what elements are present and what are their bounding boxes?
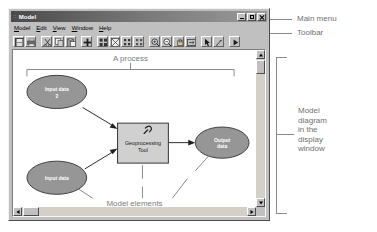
scrollbar-corner xyxy=(256,207,265,216)
node-geoprocessing-tool-label-line-1: Geoprocessing xyxy=(125,140,161,146)
process-bracket xyxy=(27,63,234,77)
scroll-down-button[interactable] xyxy=(256,198,265,207)
callout-main-menu: Main menu xyxy=(297,14,337,24)
node-output-data[interactable]: Output data xyxy=(195,127,249,158)
run-icon[interactable] xyxy=(229,36,240,47)
scroll-left-button[interactable] xyxy=(13,207,22,216)
window-controls xyxy=(237,13,267,21)
node-geoprocessing-tool[interactable]: Geoprocessing Tool xyxy=(118,123,169,163)
diagram-properties-icon[interactable] xyxy=(109,36,120,47)
connect-icon[interactable] xyxy=(213,36,224,47)
vertical-scrollbar[interactable] xyxy=(256,50,265,207)
maximize-button[interactable] xyxy=(247,13,256,21)
model-window: :: Model Model Edit View Window Help xyxy=(8,8,270,221)
callout-model-diagram: Model diagram in the display window xyxy=(298,106,327,154)
node-input-data-label: Input data xyxy=(45,176,69,181)
display-window: A process xyxy=(12,49,266,217)
node-geoprocessing-tool-label-line-2: Tool xyxy=(138,147,148,153)
model-diagram-canvas[interactable]: A process xyxy=(13,50,256,207)
select-all-icon[interactable] xyxy=(121,36,132,47)
node-output-data-label-line-2: data xyxy=(217,145,227,150)
menu-item-model[interactable]: Model xyxy=(14,25,30,31)
main-menu-leader-line xyxy=(270,19,292,20)
model-elements-label: Model elements xyxy=(106,199,162,207)
model-diagram-leader-line xyxy=(276,134,294,135)
model-diagram-svg: A process xyxy=(13,50,256,207)
node-output-data-label-line-1: Output xyxy=(214,138,231,143)
paste-icon[interactable] xyxy=(65,36,76,47)
zoom-in-icon[interactable] xyxy=(149,36,160,47)
node-input-data[interactable]: Input data xyxy=(27,161,87,194)
zoom-out-icon[interactable] xyxy=(161,36,172,47)
menu-item-window[interactable]: Window xyxy=(72,25,93,31)
save-icon[interactable] xyxy=(13,36,24,47)
callout-toolbar: Toolbar xyxy=(297,28,323,38)
toolbar-leader-line xyxy=(270,33,292,34)
toolbar xyxy=(11,34,267,48)
menu-item-help[interactable]: Help xyxy=(99,25,111,31)
print-icon[interactable] xyxy=(25,36,36,47)
figure-root: :: Model Model Edit View Window Help xyxy=(0,0,377,232)
horizontal-scroll-thumb[interactable] xyxy=(23,207,39,216)
connector-tool-to-output xyxy=(168,140,195,146)
main-menu-bar: Model Edit View Window Help xyxy=(11,23,267,33)
select-pointer-icon[interactable] xyxy=(201,36,212,47)
menu-item-view[interactable]: View xyxy=(53,25,66,31)
full-extent-icon[interactable] xyxy=(133,36,144,47)
fit-window-icon[interactable] xyxy=(185,36,196,47)
pan-icon[interactable] xyxy=(173,36,184,47)
window-title: Model xyxy=(19,14,36,20)
connector-input2-to-tool xyxy=(83,108,118,129)
copy-icon[interactable] xyxy=(53,36,64,47)
node-input-data-2[interactable]: Input data 2 xyxy=(27,75,87,108)
window-menu-icon[interactable]: :: xyxy=(13,14,17,19)
close-button[interactable] xyxy=(257,13,266,21)
node-input-data-2-label-line-1: Input data xyxy=(45,87,69,92)
vertical-scroll-thumb[interactable] xyxy=(256,60,265,74)
scroll-right-button[interactable] xyxy=(247,207,256,216)
add-data-icon[interactable] xyxy=(81,36,92,47)
minimize-button[interactable] xyxy=(237,13,246,21)
cut-icon[interactable] xyxy=(41,36,52,47)
annotation-callouts: Main menu Toolbar Model diagram in the d… xyxy=(270,0,377,232)
menu-item-edit[interactable]: Edit xyxy=(36,25,46,31)
node-input-data-2-label-line-2: 2 xyxy=(55,94,58,99)
window-titlebar[interactable]: :: Model xyxy=(11,11,267,22)
process-label: A process xyxy=(113,54,148,63)
scroll-up-button[interactable] xyxy=(256,50,265,59)
auto-layout-icon[interactable] xyxy=(97,36,108,47)
model-diagram-bracket xyxy=(276,57,287,214)
connector-input-to-tool xyxy=(85,148,118,168)
horizontal-scrollbar[interactable] xyxy=(13,207,256,216)
